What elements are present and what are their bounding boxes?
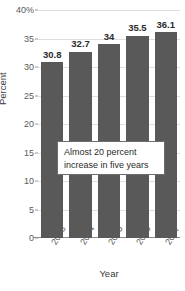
bar-chart: Percent 0510152025303540% 30.832.73435.5…: [0, 0, 185, 291]
annotation-line-1: Almost 20 percent: [64, 146, 158, 159]
plot-area: 0510152025303540% 30.832.73435.536.1: [38, 10, 180, 238]
y-tick-label: 30: [24, 63, 34, 72]
bar-slot: 32.7: [66, 10, 94, 238]
y-tick-label: 0: [29, 234, 34, 243]
bar[interactable]: [126, 36, 148, 238]
y-tick-label: 15: [24, 148, 34, 157]
bar-series: 30.832.73435.536.1: [38, 10, 180, 238]
bar-value-label: 35.5: [123, 23, 151, 33]
bar-value-label: 36.1: [152, 20, 180, 30]
annotation-callout: Almost 20 percent increase in five years: [57, 141, 165, 175]
bar-value-label: 30.8: [38, 50, 66, 60]
y-tick-label: 5: [29, 205, 34, 214]
bar-slot: 35.5: [123, 10, 151, 238]
bar-slot: 36.1: [152, 10, 180, 238]
y-tick-label: 20: [24, 120, 34, 129]
annotation-line-2: increase in five years: [64, 159, 158, 172]
y-tick-label: 10: [24, 177, 34, 186]
x-axis-title: Year: [38, 269, 180, 279]
y-tick-label: 35: [24, 34, 34, 43]
bar-slot: 34: [95, 10, 123, 238]
bar-value-label: 32.7: [66, 39, 94, 49]
bar[interactable]: [155, 32, 177, 238]
bar-value-label: 34: [95, 32, 123, 42]
y-axis-title: Percent: [0, 72, 8, 105]
bar-slot: 30.8: [38, 10, 66, 238]
y-tick-label: 25: [24, 91, 34, 100]
y-tick-label: 40%: [16, 6, 34, 15]
